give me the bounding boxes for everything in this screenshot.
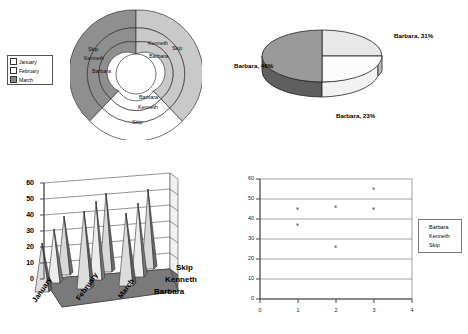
scatter-xtick-4: 4 — [405, 307, 419, 313]
legend-label: March — [19, 77, 33, 83]
scatter-ytick-30: 30 — [240, 235, 254, 241]
pie3d-svg — [252, 24, 392, 119]
legend-label: January — [19, 59, 37, 65]
donut-label-inner-left: Barbara — [92, 68, 111, 74]
legend-item-barbara: · Barbara — [422, 222, 458, 231]
legend-item-kenneth: Kenneth — [422, 231, 458, 240]
legend-label: Barbara — [429, 224, 449, 230]
donut-label-inner-bottom: Barbara — [139, 94, 158, 100]
pie3d-chart: Barbara, 31% Barbara, 46% Barbara, 23% — [234, 0, 468, 167]
scatter-ytick-0: 0 — [240, 295, 254, 301]
cone-ytick-20: 20 — [18, 243, 34, 250]
doughnut-chart: January February March — [0, 0, 234, 167]
cone-ytick-40: 40 — [18, 211, 34, 218]
donut-label-inner-right: Barbara — [149, 53, 168, 59]
cone-series-barbara: Barbara — [154, 287, 184, 296]
legend-swatch-icon — [10, 67, 17, 74]
donut-label-mid-bottom: Kenneth — [138, 104, 158, 110]
pie-label-46: Barbara, 46% — [234, 62, 273, 69]
pie-label-23: Barbara, 23% — [336, 112, 375, 119]
donut-label-outer-left: Skip — [88, 46, 98, 52]
cone-ytick-50: 50 — [18, 195, 34, 202]
doughnut-hole — [116, 54, 156, 94]
doughnut-graphic: Skip Kenneth Barbara Kenneth Skip Barbar… — [70, 8, 202, 140]
scatter-ytick-60: 60 — [240, 175, 254, 181]
cone-ytick-60: 60 — [18, 179, 34, 186]
scatter-xtick-1: 1 — [291, 307, 305, 313]
donut-label-mid-left: Kenneth — [84, 55, 104, 61]
scatter-chart: 60 50 40 30 20 10 0 0 1 2 3 4 · Barbara … — [234, 167, 468, 334]
scatter-ytick-50: 50 — [240, 195, 254, 201]
cone-series-skip: Skip — [176, 263, 193, 272]
cone-series-kenneth: Kenneth — [165, 275, 197, 284]
scatter-xtick-2: 2 — [329, 307, 343, 313]
cone-ytick-10: 10 — [18, 259, 34, 266]
scatter-xtick-3: 3 — [367, 307, 381, 313]
cone3d-chart: 60 50 40 30 20 10 0 January February Mar… — [0, 167, 234, 334]
legend-item-february: February — [10, 66, 50, 75]
legend-label: Kenneth — [429, 233, 450, 239]
legend-item-march: March — [10, 75, 50, 84]
legend-item-january: January — [10, 57, 50, 66]
scatter-ytick-20: 20 — [240, 255, 254, 261]
legend-swatch-icon — [10, 58, 17, 65]
legend-label: Skip — [429, 242, 440, 248]
doughnut-legend: January February March — [7, 55, 53, 85]
scatter-ytick-40: 40 — [240, 215, 254, 221]
donut-label-mid-right: Kenneth — [148, 40, 168, 46]
donut-label-outer-bottom: Skip — [132, 119, 142, 125]
pie3d-graphic: Barbara, 31% Barbara, 46% Barbara, 23% — [252, 24, 392, 119]
cone-ytick-0: 0 — [18, 275, 34, 282]
cone3d-graphic: 60 50 40 30 20 10 0 January February Mar… — [2, 171, 234, 333]
legend-item-skip: Skip — [422, 240, 458, 249]
pie-label-31: Barbara, 31% — [394, 32, 433, 39]
scatter-legend: · Barbara Kenneth Skip — [418, 219, 462, 253]
cone3d-svg — [2, 171, 234, 333]
donut-label-outer-right: Skip — [172, 45, 182, 51]
cone-ytick-30: 30 — [18, 227, 34, 234]
scatter-graphic: 60 50 40 30 20 10 0 0 1 2 3 4 · Barbara … — [238, 173, 464, 331]
legend-swatch-icon — [10, 76, 17, 83]
legend-label: February — [19, 68, 39, 74]
legend-marker-icon: · — [422, 224, 428, 230]
scatter-ytick-10: 10 — [240, 275, 254, 281]
scatter-xtick-0: 0 — [253, 307, 267, 313]
pie-slice-31 — [322, 30, 382, 56]
